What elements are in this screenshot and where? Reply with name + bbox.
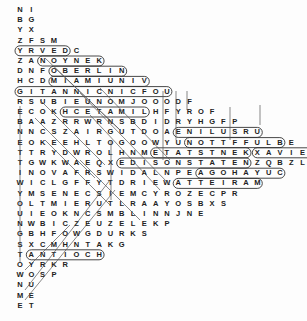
grid-letter[interactable]: U — [161, 87, 172, 97]
grid-letter[interactable]: Y — [150, 189, 161, 199]
grid-letter[interactable]: D — [94, 229, 105, 239]
grid-letter[interactable]: I — [60, 76, 71, 86]
grid-letter[interactable]: B — [15, 117, 26, 127]
grid-letter[interactable]: D — [128, 158, 139, 168]
grid-letter[interactable]: I — [60, 199, 71, 209]
grid-letter[interactable]: E — [195, 189, 206, 199]
grid-letter[interactable]: R — [94, 117, 105, 127]
grid-letter[interactable]: N — [15, 127, 26, 137]
grid-letter[interactable]: C — [82, 189, 93, 199]
grid-letter[interactable]: F — [184, 97, 195, 107]
grid-letter[interactable]: Q — [263, 158, 274, 168]
grid-letter[interactable]: M — [139, 148, 150, 158]
grid-letter[interactable]: T — [184, 148, 195, 158]
grid-letter[interactable]: A — [94, 240, 105, 250]
grid-letter[interactable]: I — [82, 87, 93, 97]
grid-letter[interactable]: F — [48, 229, 59, 239]
grid-letter[interactable]: M — [116, 107, 127, 117]
grid-letter[interactable]: L — [139, 107, 150, 117]
grid-letter[interactable]: R — [128, 199, 139, 209]
grid-letter[interactable]: Z — [71, 219, 82, 229]
grid-letter[interactable]: K — [60, 209, 71, 219]
grid-letter[interactable]: E — [139, 219, 150, 229]
grid-letter[interactable]: F — [71, 178, 82, 188]
grid-letter[interactable]: B — [37, 219, 48, 229]
grid-letter[interactable]: T — [26, 301, 37, 311]
grid-letter[interactable]: C — [26, 76, 37, 86]
grid-letter[interactable]: E — [71, 199, 82, 209]
grid-letter[interactable]: R — [161, 189, 172, 199]
grid-letter[interactable]: T — [82, 240, 93, 250]
grid-letter[interactable]: E — [82, 107, 93, 117]
grid-letter[interactable]: I — [48, 219, 59, 229]
grid-letter[interactable]: C — [82, 250, 93, 260]
grid-letter[interactable]: O — [139, 138, 150, 148]
grid-letter[interactable]: M — [116, 97, 127, 107]
grid-letter[interactable]: R — [94, 127, 105, 137]
grid-letter[interactable]: M — [48, 76, 59, 86]
grid-letter[interactable]: U — [105, 76, 116, 86]
grid-letter[interactable]: S — [195, 148, 206, 158]
grid-letter[interactable]: C — [37, 240, 48, 250]
grid-letter[interactable]: L — [26, 199, 37, 209]
grid-letter[interactable]: Y — [15, 189, 26, 199]
grid-letter[interactable]: N — [241, 158, 252, 168]
grid-letter[interactable]: E — [150, 148, 161, 158]
grid-letter[interactable]: E — [37, 209, 48, 219]
grid-letter[interactable]: Y — [15, 25, 26, 35]
grid-letter[interactable]: O — [150, 97, 161, 107]
grid-letter[interactable]: N — [184, 138, 195, 148]
grid-letter[interactable]: O — [161, 97, 172, 107]
grid-letter[interactable]: W — [15, 270, 26, 280]
grid-letter[interactable]: I — [105, 66, 116, 76]
grid-letter[interactable]: I — [116, 87, 127, 97]
grid-letter[interactable]: E — [82, 56, 93, 66]
grid-letter[interactable]: O — [15, 199, 26, 209]
grid-letter[interactable]: U — [252, 127, 263, 137]
grid-letter[interactable]: O — [48, 56, 59, 66]
grid-letter[interactable]: F — [26, 36, 37, 46]
grid-letter[interactable]: H — [60, 107, 71, 117]
grid-letter[interactable]: I — [26, 5, 37, 15]
grid-letter[interactable]: E — [195, 209, 206, 219]
grid-letter[interactable]: T — [218, 158, 229, 168]
grid-letter[interactable]: E — [173, 127, 184, 137]
grid-letter[interactable]: U — [116, 127, 127, 137]
grid-letter[interactable]: S — [37, 36, 48, 46]
grid-letter[interactable]: R — [37, 148, 48, 158]
grid-letter[interactable]: C — [71, 107, 82, 117]
grid-letter[interactable]: Y — [252, 168, 263, 178]
grid-letter[interactable]: P — [161, 219, 172, 229]
grid-letter[interactable]: N — [161, 168, 172, 178]
grid-letter[interactable]: G — [26, 15, 37, 25]
grid-letter[interactable]: W — [60, 158, 71, 168]
grid-letter[interactable]: F — [218, 117, 229, 127]
grid-letter[interactable]: Y — [26, 260, 37, 270]
grid-letter[interactable]: N — [15, 5, 26, 15]
grid-letter[interactable]: I — [286, 148, 297, 158]
grid-letter[interactable]: O — [48, 209, 59, 219]
grid-letter[interactable]: S — [94, 189, 105, 199]
grid-letter[interactable]: N — [71, 240, 82, 250]
grid-letter[interactable]: R — [26, 46, 37, 56]
grid-letter[interactable]: M — [48, 36, 59, 46]
grid-letter[interactable]: R — [173, 117, 184, 127]
grid-letter[interactable]: N — [26, 66, 37, 76]
grid-letter[interactable]: L — [128, 219, 139, 229]
grid-letter[interactable]: A — [207, 158, 218, 168]
grid-letter[interactable]: T — [207, 138, 218, 148]
grid-letter[interactable]: A — [71, 76, 82, 86]
grid-letter[interactable]: E — [48, 138, 59, 148]
grid-letter[interactable]: L — [150, 168, 161, 178]
grid-letter[interactable]: G — [207, 117, 218, 127]
grid-letter[interactable]: E — [48, 46, 59, 56]
grid-letter[interactable]: O — [71, 250, 82, 260]
grid-letter[interactable]: G — [116, 138, 127, 148]
grid-letter[interactable]: O — [37, 107, 48, 117]
grid-letter[interactable]: H — [195, 117, 206, 127]
grid-letter[interactable]: W — [161, 178, 172, 188]
grid-letter[interactable]: T — [218, 138, 229, 148]
grid-letter[interactable]: C — [128, 87, 139, 97]
grid-letter[interactable]: N — [26, 168, 37, 178]
grid-letter[interactable]: K — [150, 219, 161, 229]
